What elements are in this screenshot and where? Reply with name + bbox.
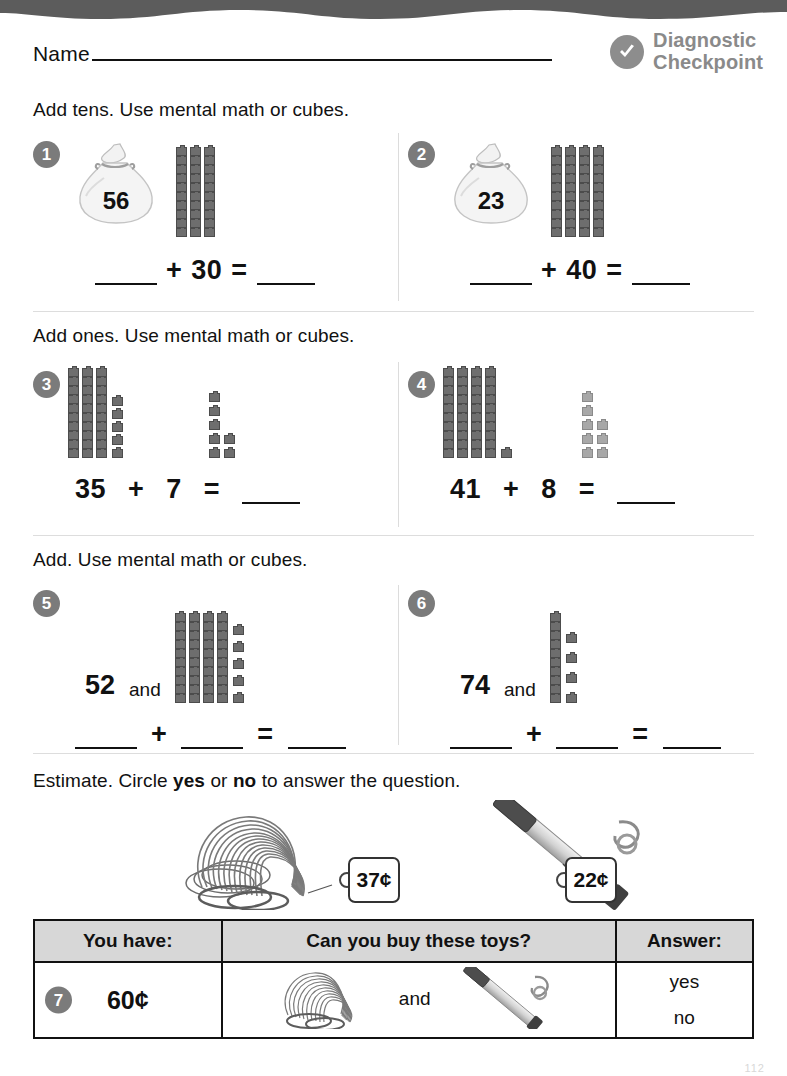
price-tag-kazoo: 22¢: [565, 857, 617, 903]
unit-cube: [233, 643, 244, 652]
answer-blank[interactable]: [556, 727, 618, 749]
unit-cube: [209, 435, 220, 444]
addend-value: 30: [191, 257, 222, 285]
ten-rods-group: [175, 613, 244, 703]
unit-cube: [597, 449, 608, 458]
addend-left: 41: [450, 476, 481, 504]
answer-blank[interactable]: [181, 727, 243, 749]
answer-blank[interactable]: [470, 263, 532, 285]
answer-blank[interactable]: [288, 727, 346, 749]
ten-rod: [471, 368, 482, 458]
answer-blank[interactable]: [242, 482, 300, 504]
ten-rod: [204, 147, 215, 237]
ten-rod: [175, 613, 186, 703]
problem-number-badge: 1: [33, 141, 60, 168]
ten-rods-group: [443, 368, 512, 458]
answer-blank[interactable]: [450, 727, 512, 749]
addend-right: 8: [541, 476, 557, 504]
table-header-answer: Answer:: [616, 920, 753, 962]
section-4-instruction: Estimate. Circle yes or no to answer the…: [33, 770, 460, 792]
section-divider-1: [33, 311, 754, 312]
problem-1-equation: + 30 =: [95, 257, 315, 285]
operator-equals: =: [204, 476, 220, 504]
unit-cube: [224, 435, 235, 444]
ten-rod: [176, 147, 187, 237]
unit-cube: [224, 449, 235, 458]
and-label: and: [129, 679, 161, 703]
ten-rod: [189, 613, 200, 703]
unit-cube: [582, 435, 593, 444]
ten-rod: [203, 613, 214, 703]
section-2-instruction: Add ones. Use mental math or cubes.: [33, 325, 354, 347]
unit-cube: [233, 626, 244, 635]
ten-rod: [457, 368, 468, 458]
ones-cubes-group: [501, 449, 512, 458]
problem-2-equation: + 40 =: [470, 257, 690, 285]
ones-cubes-group: [233, 626, 244, 703]
problem-3: 3 35 + 7 =: [33, 368, 300, 504]
operator-plus: +: [128, 476, 144, 504]
answer-blank[interactable]: [663, 727, 721, 749]
section-1-instruction: Add tens. Use mental math or cubes.: [33, 99, 349, 121]
unit-cube: [233, 660, 244, 669]
operator-plus: +: [166, 257, 182, 285]
unit-cube: [209, 393, 220, 402]
addend-ones-cubes-group: [209, 393, 235, 458]
unit-cube: [582, 449, 593, 458]
cell-answer: yes no: [616, 962, 753, 1038]
left-value: 52: [85, 670, 115, 703]
instruction-yes: yes: [173, 770, 205, 791]
answer-option-no[interactable]: no: [618, 1000, 751, 1036]
answer-blank[interactable]: [95, 263, 157, 285]
name-label: Name: [33, 42, 90, 66]
unit-cube: [112, 410, 123, 419]
ten-rod: [550, 613, 561, 703]
unit-cube: [566, 634, 577, 643]
problem-number-badge: 7: [45, 987, 72, 1014]
buy-toys-table: You have: Can you buy these toys? Answer…: [33, 919, 754, 1039]
problem-5-equation: + =: [75, 721, 346, 749]
unit-cube: [501, 449, 512, 458]
left-value: 74: [460, 670, 490, 703]
problem-3-equation: 35 + 7 =: [75, 476, 300, 504]
operator-plus: +: [526, 721, 542, 749]
instruction-part-mid: or: [205, 770, 233, 791]
unit-cube: [597, 435, 608, 444]
ten-rod: [551, 147, 562, 237]
instruction-text: Add ones. Use mental math or cubes.: [33, 325, 354, 346]
instruction-part-post: to answer the question.: [256, 770, 460, 791]
worksheet-header: Name Diagnostic Checkpoint: [0, 26, 787, 88]
answer-blank[interactable]: [257, 263, 315, 285]
answer-blank[interactable]: [617, 482, 675, 504]
unit-cube: [233, 677, 244, 686]
answer-option-yes[interactable]: yes: [618, 964, 751, 1000]
problem-number-badge: 3: [33, 371, 60, 398]
instruction-no: no: [233, 770, 256, 791]
problem-1: 1 56 + 30 =: [33, 141, 315, 285]
slinky-toy-small-icon: [275, 967, 387, 1033]
check-circle-icon: [610, 35, 644, 69]
operator-equals: =: [257, 721, 273, 749]
name-input-line[interactable]: [92, 45, 552, 61]
problem-6-equation: + =: [450, 721, 721, 749]
operator-plus: +: [503, 476, 519, 504]
unit-cube: [582, 421, 593, 430]
operator-plus: +: [151, 721, 167, 749]
addend-right: 7: [166, 476, 182, 504]
unit-cube: [209, 449, 220, 458]
ten-rod: [565, 147, 576, 237]
badge-title-line1: Diagnostic: [653, 29, 756, 51]
ones-cubes-group: [566, 634, 577, 703]
money-bag-icon: 23: [445, 141, 541, 227]
column-divider-2: [398, 362, 399, 527]
kazoo-toy-small-icon: [443, 967, 563, 1033]
problem-number-badge: 4: [408, 371, 435, 398]
problem-5: 5 52 and + =: [33, 590, 346, 749]
column-divider-3: [398, 585, 399, 745]
answer-blank[interactable]: [75, 727, 137, 749]
answer-blank[interactable]: [632, 263, 690, 285]
unit-cube: [112, 449, 123, 458]
problem-4-equation: 41 + 8 =: [450, 476, 675, 504]
and-label: and: [504, 679, 536, 703]
page-number: 112: [744, 1062, 765, 1074]
